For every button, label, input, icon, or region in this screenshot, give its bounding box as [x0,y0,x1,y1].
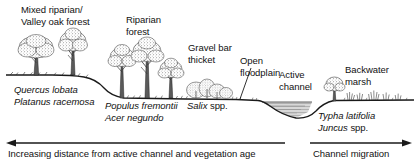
distance-axis-arrow [6,139,285,146]
riparian-cross-section-figure: Mixed riparian/ Valley oak forest Ripari… [0,0,417,166]
species-salix-rank: spp. [207,100,227,111]
species-juncus-genus: Juncus [318,122,348,133]
species-juncus-spp: Juncus spp. [318,122,368,134]
species-platanus-racemosa: Platanus racemosa [14,96,94,108]
caption-channel-migration: Channel migration [313,148,389,160]
label-gravel-bar-thicket: Gravel bar thicket [188,42,232,65]
label-riparian-forest: Riparian forest [126,14,161,37]
box-elder-tree [158,58,184,98]
channel-migration-axis-arrow [310,139,412,146]
cottonwood-tree-2 [131,37,164,98]
label-mixed-riparian-valley-oak-forest: Mixed riparian/ Valley oak forest [21,4,90,27]
valley-oak-tree-2 [59,28,88,75]
species-juncus-rank: spp. [348,122,368,133]
label-open-floodplain: Open floodplain [240,55,280,78]
caption-increasing-distance: Increasing distance from active channel … [8,148,255,160]
label-active-channel: Active channel [279,69,312,92]
willow-shrub-thicket [187,79,233,99]
species-salix-genus: Salix [187,100,207,111]
species-salix-spp: Salix spp. [187,100,228,112]
species-quercus-lobata: Quercus lobata [14,84,78,96]
cottonwood-tree-1 [108,45,136,99]
label-backwater-marsh: Backwater marsh [345,64,389,87]
species-typha-latifolia: Typha latifolia [318,110,375,122]
species-acer-negundo: Acer negundo [105,112,164,124]
backwater-tree [324,77,345,101]
species-populus-fremontii: Populus fremontii [105,100,178,112]
valley-oak-tree-1 [18,35,54,76]
